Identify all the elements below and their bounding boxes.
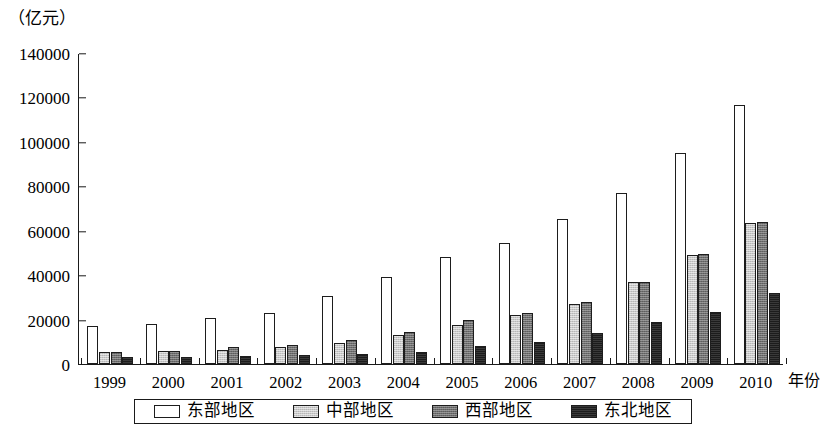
bar-northeast-2006 [534, 342, 545, 364]
y-axis-unit-label: （亿元） [8, 4, 76, 29]
y-axis-tick-mark [79, 53, 86, 54]
x-axis-tick-label-2000: 2000 [152, 373, 185, 393]
bar-west-2001 [228, 347, 239, 364]
chart-legend: 东部地区中部地区西部地区东北地区 [134, 399, 692, 424]
bar-central-2009 [687, 255, 698, 364]
y-axis-tick-label: 0 [62, 357, 80, 374]
legend-label: 东北地区 [604, 403, 672, 420]
y-axis-tick-label: 100000 [19, 134, 79, 151]
x-axis-tick-mark [257, 358, 258, 364]
bar-west-2009 [698, 254, 709, 364]
bar-central-2004 [393, 335, 404, 364]
bar-west-2004 [404, 332, 415, 364]
x-axis-tick-mark [610, 358, 611, 364]
bar-east-2008 [616, 193, 627, 364]
legend-label: 中部地区 [326, 403, 394, 420]
bar-east-2000 [146, 324, 157, 364]
plot-area: 0200004000060000800001000001200001400001… [78, 54, 783, 365]
x-axis-tick-label-2001: 2001 [210, 373, 243, 393]
bar-group-2009 [675, 54, 721, 364]
y-axis-tick-label: 60000 [28, 223, 80, 240]
bar-group-2010 [734, 54, 780, 364]
bar-east-2003 [322, 296, 333, 364]
x-axis-tick-label-2008: 2008 [622, 373, 655, 393]
bar-west-2002 [287, 345, 298, 364]
bar-central-2007 [569, 304, 580, 364]
bar-central-2002 [275, 347, 286, 364]
x-axis-title: 年份 [788, 367, 820, 391]
x-axis-tick-mark [492, 358, 493, 364]
bar-northeast-2005 [475, 346, 486, 364]
bar-west-2000 [169, 351, 180, 364]
bar-group-1999 [87, 54, 133, 364]
bar-west-2003 [346, 340, 357, 364]
y-axis-tick-label: 20000 [28, 312, 80, 329]
legend-item-central[interactable]: 中部地区 [293, 403, 394, 420]
legend-label: 东部地区 [187, 403, 255, 420]
legend-item-northeast[interactable]: 东北地区 [571, 403, 672, 420]
bar-central-2010 [745, 223, 756, 364]
bar-central-2006 [510, 315, 521, 364]
bar-group-2005 [440, 54, 486, 364]
y-axis-tick-mark [79, 231, 86, 232]
x-axis-tick-mark [786, 358, 787, 364]
bar-central-2001 [217, 350, 228, 364]
bar-central-2008 [628, 282, 639, 364]
bar-central-1999 [99, 352, 110, 364]
legend-swatch-east-icon [154, 405, 180, 418]
x-axis-tick-mark [551, 358, 552, 364]
x-axis-tick-label-2004: 2004 [387, 373, 420, 393]
bar-central-2005 [452, 325, 463, 364]
bar-group-2001 [205, 54, 251, 364]
x-axis-tick-mark [199, 358, 200, 364]
bar-west-2005 [463, 320, 474, 364]
x-axis-tick-mark [81, 358, 82, 364]
bar-northeast-2009 [710, 312, 721, 364]
x-axis-tick-mark [727, 358, 728, 364]
y-axis-tick-label: 140000 [19, 46, 79, 63]
bar-west-1999 [111, 352, 122, 364]
x-axis-tick-mark [669, 358, 670, 364]
bar-group-2000 [146, 54, 192, 364]
x-axis-tick-label-2007: 2007 [563, 373, 596, 393]
y-axis-tick-mark [79, 142, 86, 143]
legend-item-west[interactable]: 西部地区 [432, 403, 533, 420]
x-axis-tick-mark [375, 358, 376, 364]
y-axis-tick-label: 120000 [19, 90, 79, 107]
legend-label: 西部地区 [465, 403, 533, 420]
bar-east-2010 [734, 105, 745, 364]
bar-east-2005 [440, 257, 451, 364]
x-axis-tick-label-1999: 1999 [93, 373, 126, 393]
x-axis-tick-label-2003: 2003 [328, 373, 361, 393]
y-axis-tick-label: 80000 [28, 179, 80, 196]
bar-northeast-2001 [240, 356, 251, 364]
bar-west-2007 [581, 302, 592, 364]
x-axis-tick-label-2002: 2002 [269, 373, 302, 393]
x-axis-tick-mark [316, 358, 317, 364]
bar-east-2009 [675, 153, 686, 364]
bar-group-2004 [381, 54, 427, 364]
bar-group-2006 [499, 54, 545, 364]
y-axis-tick-mark [79, 187, 86, 188]
bar-group-2002 [264, 54, 310, 364]
x-axis-tick-label-2010: 2010 [739, 373, 772, 393]
y-axis-tick-mark [79, 320, 86, 321]
x-axis-tick-label-2006: 2006 [504, 373, 537, 393]
y-axis-tick-mark [79, 98, 86, 99]
legend-swatch-west-icon [432, 405, 458, 418]
bar-chart: （亿元） 02000040000600008000010000012000014… [0, 0, 827, 425]
bar-east-2007 [557, 219, 568, 365]
bar-group-2008 [616, 54, 662, 364]
bar-east-2001 [205, 318, 216, 364]
bar-northeast-2004 [416, 352, 427, 364]
bar-west-2010 [757, 222, 768, 364]
y-axis-tick-label: 40000 [28, 268, 80, 285]
legend-item-east[interactable]: 东部地区 [154, 403, 255, 420]
x-axis-tick-mark [434, 358, 435, 364]
bar-northeast-1999 [122, 357, 133, 364]
y-axis-tick-mark [79, 275, 86, 276]
bar-group-2007 [557, 54, 603, 364]
bar-northeast-2008 [651, 322, 662, 364]
bar-east-1999 [87, 326, 98, 364]
bar-northeast-2010 [769, 293, 780, 364]
